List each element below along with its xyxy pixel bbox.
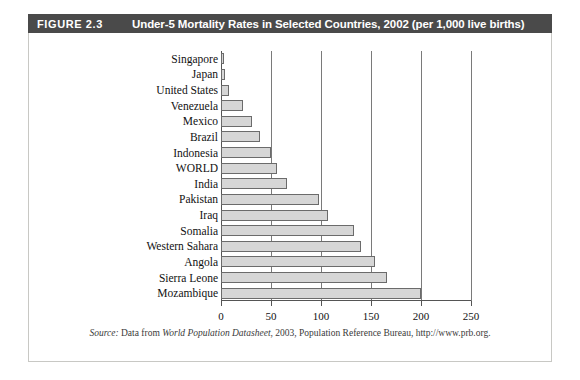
bar-mexico xyxy=(221,116,252,127)
category-label-world: WORLD xyxy=(176,163,218,174)
bar-indonesia xyxy=(221,147,271,158)
source-prefix: Source: xyxy=(89,328,118,338)
x-tick-250 xyxy=(471,301,472,306)
category-label-sierra-leone: Sierra Leone xyxy=(159,272,218,283)
figure-header-band: FIGURE 2.3 Under-5 Mortality Rates in Se… xyxy=(28,14,552,33)
x-tick-100 xyxy=(321,301,322,306)
category-label-venezuela: Venezuela xyxy=(171,100,218,111)
bar-western-sahara xyxy=(221,241,361,252)
category-label-indonesia: Indonesia xyxy=(173,147,218,158)
bar-row: India xyxy=(221,176,471,192)
bar-row: Somalia xyxy=(221,223,471,239)
bar-row: United States xyxy=(221,82,471,98)
bar-chart: 050100150200250 SingaporeJapanUnited Sta… xyxy=(29,33,551,305)
bar-venezuela xyxy=(221,100,243,111)
bar-united-states xyxy=(221,85,229,96)
x-tick-label-200: 200 xyxy=(413,310,430,322)
bar-row: Japan xyxy=(221,67,471,83)
bar-mozambique xyxy=(221,288,421,299)
category-label-united-states: United States xyxy=(156,85,218,96)
bar-row: Indonesia xyxy=(221,145,471,161)
x-tick-200 xyxy=(421,301,422,306)
bar-row: Western Sahara xyxy=(221,239,471,255)
bar-row: Brazil xyxy=(221,129,471,145)
bar-row: Mozambique xyxy=(221,285,471,301)
bar-iraq xyxy=(221,210,328,221)
bar-row: Angola xyxy=(221,254,471,270)
bar-row: Singapore xyxy=(221,51,471,67)
category-label-western-sahara: Western Sahara xyxy=(146,241,218,252)
bar-row: Mexico xyxy=(221,114,471,130)
x-tick-150 xyxy=(371,301,372,306)
category-label-brazil: Brazil xyxy=(190,131,218,142)
x-tick-label-250: 250 xyxy=(463,310,480,322)
category-label-japan: Japan xyxy=(192,69,218,80)
x-tick-label-150: 150 xyxy=(363,310,380,322)
bar-pakistan xyxy=(221,194,319,205)
bar-angola xyxy=(221,256,375,267)
source-publication-title: World Population Datasheet xyxy=(162,328,270,338)
category-label-mexico: Mexico xyxy=(183,116,218,127)
bar-row: WORLD xyxy=(221,160,471,176)
bar-brazil xyxy=(221,131,260,142)
bar-somalia xyxy=(221,225,354,236)
bar-india xyxy=(221,178,287,189)
x-tick-label-50: 50 xyxy=(266,310,277,322)
bar-row: Iraq xyxy=(221,207,471,223)
category-label-india: India xyxy=(194,178,218,189)
figure-number-label: FIGURE 2.3 xyxy=(28,18,132,30)
source-text-tail: , 2003, Population Reference Bureau, htt… xyxy=(271,328,491,338)
figure-title: Under-5 Mortality Rates in Selected Coun… xyxy=(132,18,525,30)
figure-container: FIGURE 2.3 Under-5 Mortality Rates in Se… xyxy=(28,14,552,362)
bar-sierra-leone xyxy=(221,272,387,283)
category-label-mozambique: Mozambique xyxy=(157,288,218,299)
source-text-lead: Data from xyxy=(119,328,163,338)
category-label-pakistan: Pakistan xyxy=(179,194,218,205)
source-note: Source: Data from World Population Datas… xyxy=(29,328,551,338)
category-label-iraq: Iraq xyxy=(199,210,218,221)
x-tick-0 xyxy=(221,301,222,306)
category-label-angola: Angola xyxy=(184,256,218,267)
bar-world xyxy=(221,163,277,174)
category-label-singapore: Singapore xyxy=(171,53,218,64)
x-tick-50 xyxy=(271,301,272,306)
bar-row: Venezuela xyxy=(221,98,471,114)
gridline-250 xyxy=(471,51,472,301)
figure-body-panel: 050100150200250 SingaporeJapanUnited Sta… xyxy=(28,33,552,362)
bar-row: Sierra Leone xyxy=(221,270,471,286)
x-tick-label-100: 100 xyxy=(313,310,330,322)
bar-singapore xyxy=(221,53,224,64)
bar-rows-group: SingaporeJapanUnited StatesVenezuelaMexi… xyxy=(221,51,471,301)
category-label-somalia: Somalia xyxy=(180,225,218,236)
x-tick-label-0: 0 xyxy=(218,310,224,322)
bar-japan xyxy=(221,69,225,80)
bar-row: Pakistan xyxy=(221,192,471,208)
plot-area: 050100150200250 SingaporeJapanUnited Sta… xyxy=(221,51,471,301)
